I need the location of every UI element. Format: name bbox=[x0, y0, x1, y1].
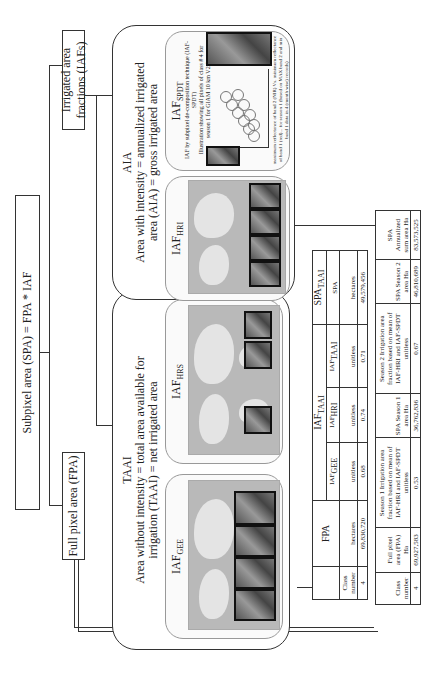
aia-panel: AIA Area with intensity = annualized irr… bbox=[112, 25, 295, 300]
class-number-label: Class number bbox=[339, 567, 357, 600]
iaf-spdt-panel: IAFSPDT IAF by subpixel de-composition t… bbox=[165, 31, 290, 171]
class-number-header bbox=[313, 567, 340, 600]
connector-line bbox=[49, 505, 62, 506]
diagram-canvas: Subpixel area (SPA) = FPA * IAF Full pix… bbox=[0, 0, 434, 696]
iaf-hri-label: IAFHRI bbox=[170, 177, 187, 300]
connector-line bbox=[49, 66, 50, 506]
iaf-gee-unit: unitless bbox=[339, 442, 357, 500]
satellite-image bbox=[244, 406, 272, 434]
satellite-image bbox=[249, 183, 281, 209]
iaf-hri-col: IAFHRI bbox=[327, 388, 340, 443]
fpa-header: FPA bbox=[313, 500, 340, 566]
class-number-value: 4 bbox=[358, 567, 368, 600]
iaf-taai-value: 0.71 bbox=[358, 325, 368, 388]
t2-season1-spa-label: SPA Season 1 area Ha bbox=[376, 394, 411, 438]
t2-annual-spa-value: 83,573,525 bbox=[411, 211, 421, 260]
t2-class-label: Class number bbox=[376, 572, 411, 604]
t2-season2-spa-value: 46,810,689 bbox=[411, 260, 421, 304]
taai-panel: TAAI Area without intensity = total area… bbox=[112, 290, 290, 650]
connector-line bbox=[96, 95, 112, 96]
iaf-gee-value: 0.68 bbox=[358, 442, 368, 500]
iaf-gee-panel: IAFGEE bbox=[165, 474, 283, 639]
satellite-image bbox=[234, 491, 276, 525]
connector-line bbox=[96, 95, 97, 426]
fpa-unit: hectares bbox=[339, 500, 357, 566]
satellite-image bbox=[249, 235, 281, 261]
t2-class-value: 4 bbox=[411, 572, 421, 604]
iaf-gee-label: IAFGEE bbox=[170, 475, 187, 638]
fpa-box-text: Full pixel area (FPA) bbox=[66, 455, 81, 556]
iaf-box-text: Irrigated area fractions (IAFs) bbox=[59, 31, 89, 129]
t2-season1-spa-value: 36,762,836 bbox=[411, 394, 421, 438]
fpa-box: Full pixel area (FPA) bbox=[62, 452, 85, 560]
spa-col: SPA bbox=[327, 251, 340, 325]
iaf-gee-col: IAFGEE bbox=[327, 442, 340, 500]
t2-fpa-value: 69,927,583 bbox=[411, 528, 421, 572]
fpa-value: 69,830,720 bbox=[358, 500, 368, 566]
t2-season1-iaf-value: 0.53 bbox=[411, 438, 421, 528]
t2-fpa-label: Full pixel area (FPA) Ha bbox=[376, 528, 411, 572]
connector-line bbox=[74, 560, 75, 628]
satellite-image bbox=[206, 32, 272, 66]
t2-season2-iaf-label: Season 2 Irrigation area fraction based … bbox=[376, 304, 411, 394]
t2-annual-spa-label: SPA Annualized sum area Ha bbox=[376, 211, 411, 260]
spa-formula-text: Subpixel area (SPA) = FPA * IAF bbox=[20, 272, 35, 434]
spdt-axis-caption: maximum reflectance of band 2 (NIR) Vs. … bbox=[272, 34, 290, 166]
spdt-scatter-plot bbox=[208, 69, 269, 148]
world-map-gee bbox=[188, 480, 280, 630]
spa-formula-box: Subpixel area (SPA) = FPA * IAF bbox=[15, 195, 40, 510]
spa-value: 49,579,456 bbox=[358, 251, 368, 325]
iaf-hri-value: 0.74 bbox=[358, 388, 368, 443]
taai-results-table: FPA IAFTAAI SPATAAI IAFGEE IAFHRI IAFTAA… bbox=[312, 250, 368, 600]
connector-line bbox=[96, 425, 112, 426]
taai-definition-line2: irrigation (TAAI) = net irrigated area bbox=[147, 291, 160, 649]
t2-season2-iaf-value: 0.67 bbox=[411, 304, 421, 394]
satellite-image bbox=[234, 525, 276, 557]
connector-line bbox=[78, 560, 79, 632]
satellite-image bbox=[234, 557, 276, 589]
spa-taai-header: SPATAAI bbox=[313, 251, 327, 325]
spa-unit: hectares bbox=[339, 251, 357, 325]
t2-season2-spa-label: SPA Season 2 area Ha bbox=[376, 260, 411, 304]
satellite-image bbox=[206, 146, 240, 166]
world-map-hri bbox=[188, 180, 286, 294]
iaf-taai-unit: unitless bbox=[339, 325, 357, 388]
iaf-taai-header: IAFTAAI bbox=[313, 325, 327, 500]
satellite-image bbox=[244, 311, 272, 339]
connector-line bbox=[297, 587, 312, 588]
aia-results-table: Class number Full pixel area (FPA) Ha Se… bbox=[375, 210, 421, 605]
connector-line bbox=[295, 225, 375, 226]
iaf-hri-unit: unitless bbox=[339, 388, 357, 443]
aia-definition-line2: area (AIA) = gross irrigated area bbox=[147, 26, 160, 299]
t2-season1-iaf-label: Season 1 Irrigation area fraction based … bbox=[376, 438, 411, 528]
iaf-hri-panel: IAFHRI bbox=[165, 176, 290, 301]
iaf-hrs-panel: IAFHRS bbox=[165, 299, 283, 464]
iaf-hrs-label: IAFHRS bbox=[170, 300, 187, 463]
iaf-taai-col: IAFTAAI bbox=[327, 325, 340, 388]
satellite-image bbox=[249, 209, 281, 235]
satellite-image bbox=[249, 261, 281, 287]
satellite-image bbox=[234, 589, 276, 621]
world-map-hrs bbox=[188, 305, 280, 455]
satellite-image bbox=[244, 341, 272, 369]
iaf-box: Irrigated area fractions (IAFs) bbox=[62, 30, 85, 130]
